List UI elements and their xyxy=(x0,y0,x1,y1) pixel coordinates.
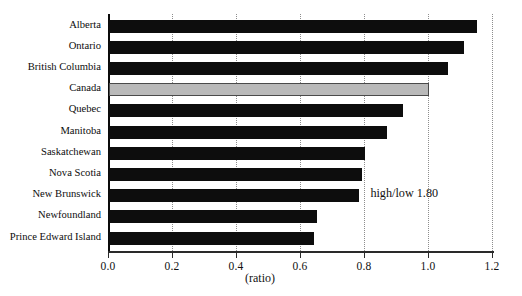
bar xyxy=(109,168,362,181)
x-tick-mark xyxy=(364,253,365,258)
category-label: Canada xyxy=(69,81,101,94)
x-axis-title-label: (ratio) xyxy=(245,271,275,285)
bar xyxy=(109,20,477,33)
category-label: Prince Edward Island xyxy=(10,230,101,243)
bar-chart: AlbertaOntarioBritish ColumbiaCanadaQueb… xyxy=(0,0,522,296)
category-label: British Columbia xyxy=(28,60,101,73)
high-low-annotation: high/low 1.80 xyxy=(370,186,438,201)
x-tick-mark xyxy=(236,253,237,258)
x-axis-title: (ratio) xyxy=(0,271,522,286)
x-axis-line xyxy=(108,251,494,253)
category-label: Newfoundland xyxy=(38,208,101,221)
plot-area: AlbertaOntarioBritish ColumbiaCanadaQueb… xyxy=(108,14,495,252)
category-label: Saskatchewan xyxy=(41,145,101,158)
bar xyxy=(109,232,314,245)
x-tick-mark xyxy=(172,253,173,258)
bar xyxy=(109,147,365,160)
x-tick-mark xyxy=(108,253,109,258)
category-label: Alberta xyxy=(69,18,101,31)
category-label: Quebec xyxy=(69,102,101,115)
x-tick-mark xyxy=(300,253,301,258)
bar xyxy=(109,62,448,75)
x-tick-mark xyxy=(492,253,493,258)
bar xyxy=(109,189,359,202)
bar xyxy=(109,83,429,96)
category-label: Ontario xyxy=(69,39,101,52)
x-tick-mark xyxy=(428,253,429,258)
bar xyxy=(109,210,317,223)
category-label: Manitoba xyxy=(60,124,101,137)
bar xyxy=(109,104,403,117)
bar xyxy=(109,126,387,139)
category-label: Nova Scotia xyxy=(49,166,101,179)
category-label: New Brunswick xyxy=(32,187,101,200)
gridline xyxy=(492,14,494,251)
bar xyxy=(109,41,464,54)
